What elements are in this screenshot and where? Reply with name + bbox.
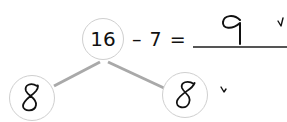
bond-line-left [54,62,100,86]
bond-line-right [108,62,164,88]
handwritten-part-left-8 [17,81,47,115]
equation-text: – 7 = [132,28,187,50]
handwritten-part-right-8 [170,78,200,112]
number-bond-worksheet: 16 – 7 = [0,0,287,122]
whole-circle: 16 [82,18,124,60]
whole-value: 16 [90,27,115,51]
handwritten-answer-9 [218,12,248,46]
part-circle-left [9,75,55,121]
check-mark-icon-part [219,84,229,94]
part-circle-right [162,72,208,118]
answer-blank-line [193,46,287,48]
check-mark-icon-answer [276,16,286,28]
